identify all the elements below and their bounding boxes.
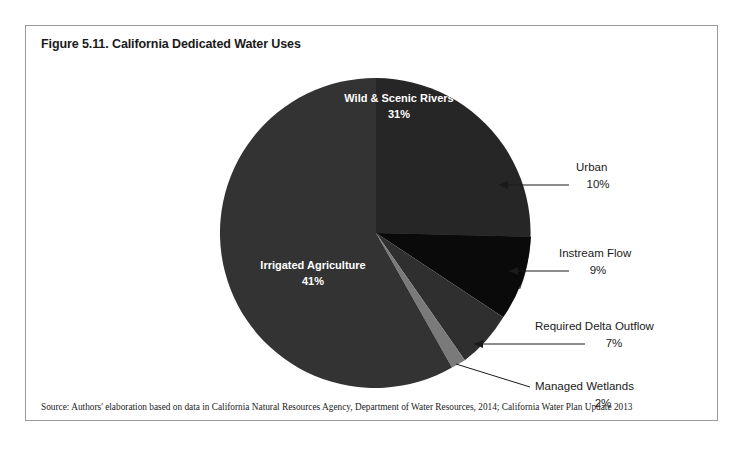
pie-chart: Wild & Scenic Rivers 31% Irrigated Agric… xyxy=(26,26,719,422)
callout-value-required-delta-outflow: 7% xyxy=(606,337,623,349)
callout-label-urban: Urban xyxy=(576,161,607,173)
callout-labels: Urban 10% Instream Flow 9% Required Delt… xyxy=(535,161,655,409)
slice-label-wild-scenic-rivers: Wild & Scenic Rivers xyxy=(344,92,453,104)
callout-value-urban: 10% xyxy=(586,178,609,190)
callout-label-instream-flow: Instream Flow xyxy=(559,247,632,259)
source-note: Source: Authors' elaboration based on da… xyxy=(41,402,632,412)
slice-value-wild-scenic-rivers: 31% xyxy=(388,108,410,120)
pie-slices xyxy=(220,78,531,388)
callout-label-managed-wetlands: Managed Wetlands xyxy=(535,380,634,392)
slice-label-irrigated-agriculture: Irrigated Agriculture xyxy=(260,259,365,271)
leader-line-managed-wetlands xyxy=(456,364,530,387)
figure-container: Figure 5.11. California Dedicated Water … xyxy=(25,25,718,421)
slice-value-irrigated-agriculture: 41% xyxy=(302,275,324,287)
callout-label-required-delta-outflow: Required Delta Outflow xyxy=(535,320,655,332)
callout-value-instream-flow: 9% xyxy=(590,264,607,276)
